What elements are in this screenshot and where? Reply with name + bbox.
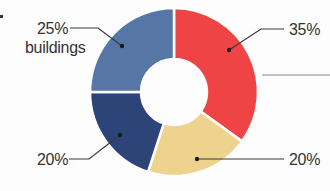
label-top-left-value: 25% [37,21,68,37]
donut-chart: 25% buildings 35% 20% 20% [0,0,330,191]
donut-slices [90,8,258,176]
leader-dot-top-right [227,48,231,52]
stray-mark [0,15,3,18]
label-bottom-left-value: 20% [37,152,68,168]
leader-dot-bottom-left [118,133,122,137]
leader-dot-bottom-right [195,157,199,161]
label-top-right-value: 35% [289,22,320,38]
label-bottom-right-value: 20% [289,152,320,168]
label-top-left-category: buildings [25,40,85,56]
donut-slice-2 [90,92,164,172]
leader-dot-top-left [120,44,124,48]
donut-slice-3 [90,8,174,92]
